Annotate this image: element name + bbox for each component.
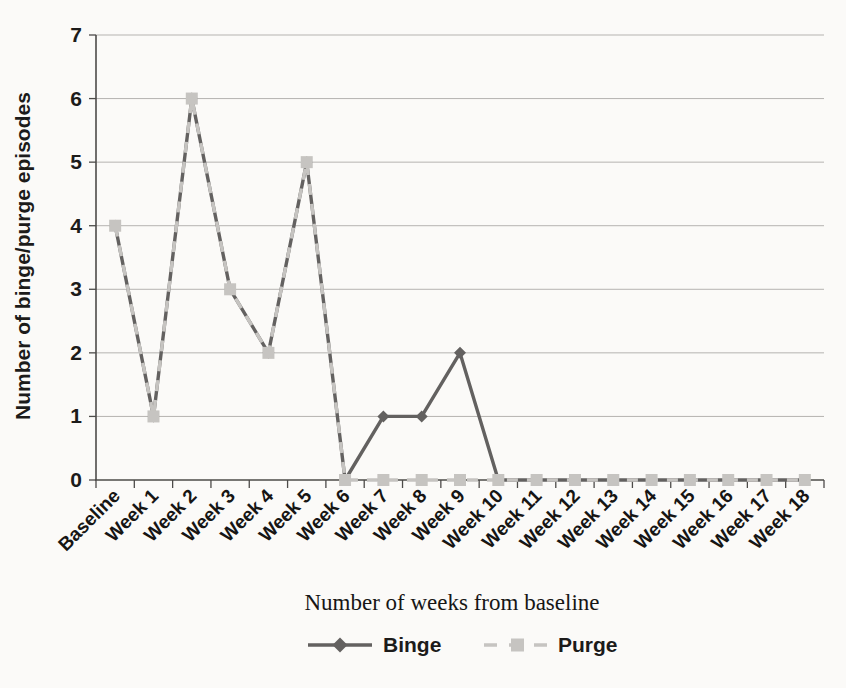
purge-marker bbox=[492, 474, 504, 486]
purge-marker bbox=[454, 474, 466, 486]
purge-marker bbox=[109, 220, 121, 232]
purge-legend-square-icon bbox=[511, 639, 524, 652]
purge-marker bbox=[301, 156, 313, 168]
binge-legend-diamond-icon bbox=[333, 638, 348, 653]
binge-legend-label: Binge bbox=[383, 633, 441, 656]
purge-marker bbox=[684, 474, 696, 486]
y-tick-label: 3 bbox=[70, 277, 82, 300]
purge-marker bbox=[799, 474, 811, 486]
purge-marker bbox=[186, 93, 198, 105]
purge-marker bbox=[377, 474, 389, 486]
purge-marker bbox=[569, 474, 581, 486]
purge-marker bbox=[262, 347, 274, 359]
purge-marker bbox=[224, 283, 236, 295]
purge-marker bbox=[761, 474, 773, 486]
purge-legend-label: Purge bbox=[558, 633, 618, 656]
y-tick-label: 2 bbox=[70, 341, 82, 364]
x-axis-title: Number of weeks from baseline bbox=[304, 590, 599, 615]
purge-marker bbox=[531, 474, 543, 486]
y-tick-label: 6 bbox=[70, 87, 82, 110]
y-axis-title: Number of binge/purge episodes bbox=[11, 92, 34, 420]
legend-item-binge: Binge bbox=[308, 633, 441, 656]
y-tick-label: 4 bbox=[70, 214, 82, 237]
y-tick-label: 5 bbox=[70, 150, 82, 173]
chart-figure: 01234567BaselineWeek 1Week 2Week 3Week 4… bbox=[0, 0, 846, 688]
binge-purge-line-chart: 01234567BaselineWeek 1Week 2Week 3Week 4… bbox=[0, 0, 846, 688]
legend: Binge Purge bbox=[308, 633, 618, 656]
y-tick-label: 0 bbox=[70, 468, 82, 491]
purge-marker bbox=[339, 474, 351, 486]
purge-marker bbox=[646, 474, 658, 486]
legend-item-purge: Purge bbox=[484, 633, 618, 656]
purge-marker bbox=[722, 474, 734, 486]
purge-marker bbox=[147, 410, 159, 422]
purge-marker bbox=[416, 474, 428, 486]
y-tick-label: 1 bbox=[70, 404, 82, 427]
purge-marker bbox=[607, 474, 619, 486]
plot-area: 01234567BaselineWeek 1Week 2Week 3Week 4… bbox=[54, 23, 824, 555]
y-tick-label: 7 bbox=[70, 23, 82, 46]
